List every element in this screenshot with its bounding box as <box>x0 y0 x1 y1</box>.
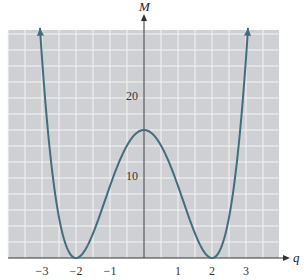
x-tick-label: −1 <box>104 264 117 278</box>
x-axis-title: q <box>293 250 300 265</box>
y-axis-arrow-icon <box>141 14 147 21</box>
y-tick-label: 20 <box>126 89 138 103</box>
x-tick-label: −3 <box>36 264 49 278</box>
y-axis-title: M <box>138 0 151 14</box>
x-tick-labels: −3−2−1123 <box>36 264 249 278</box>
x-tick-label: −2 <box>70 264 83 278</box>
chart: q M −3−2−1123 1020 <box>0 0 304 280</box>
x-tick-label: 3 <box>243 264 249 278</box>
x-tick-label: 1 <box>175 264 181 278</box>
x-axis-arrow-icon <box>283 255 290 261</box>
y-tick-label: 10 <box>126 169 138 183</box>
x-tick-label: 2 <box>209 264 215 278</box>
